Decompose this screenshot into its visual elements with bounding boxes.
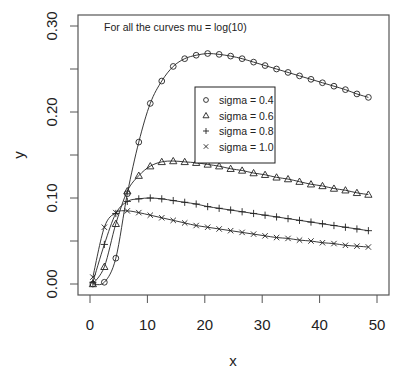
y-tick-label: 0.00 xyxy=(43,269,60,298)
x-tick-label: 30 xyxy=(254,316,271,333)
x-tick-label: 50 xyxy=(369,316,386,333)
series-line xyxy=(93,161,369,284)
data-series xyxy=(89,51,372,287)
x-tick-label: 0 xyxy=(86,316,94,333)
series-cross xyxy=(90,208,371,280)
series-triangle xyxy=(89,157,372,286)
chart-annotation: For all the curves mu = log(10) xyxy=(104,21,247,33)
line-chart: 01020304050 0.000.100.200.30 For all the… xyxy=(0,0,398,375)
y-tick-label: 0.20 xyxy=(43,97,60,126)
series-line xyxy=(93,211,369,277)
x-axis: 01020304050 xyxy=(86,295,386,333)
legend-label: sigma = 0.8 xyxy=(219,125,274,137)
y-tick-label: 0.30 xyxy=(43,11,60,40)
y-axis: 0.000.100.200.30 xyxy=(43,11,78,298)
y-axis-label: y xyxy=(10,151,27,159)
x-tick-label: 20 xyxy=(196,316,213,333)
legend-label: sigma = 0.6 xyxy=(219,110,274,122)
legend-label: sigma = 1.0 xyxy=(219,141,274,153)
series-plus xyxy=(89,194,372,285)
x-axis-label: x xyxy=(229,352,237,369)
legend: sigma = 0.4sigma = 0.6sigma = 0.8sigma =… xyxy=(195,87,275,163)
x-tick-label: 40 xyxy=(311,316,328,333)
x-tick-label: 10 xyxy=(139,316,156,333)
legend-label: sigma = 0.4 xyxy=(219,94,274,106)
y-tick-label: 0.10 xyxy=(43,183,60,212)
